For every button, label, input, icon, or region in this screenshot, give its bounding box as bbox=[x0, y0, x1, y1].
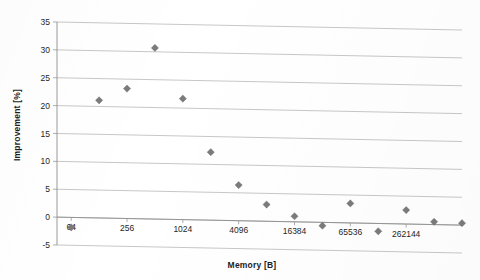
x-tick-label: 262144 bbox=[392, 229, 421, 239]
y-tick-label: 5 bbox=[45, 184, 50, 194]
scatter-chart: -505101520253035 64256102440961638465536… bbox=[0, 0, 480, 280]
y-tick-label: 20 bbox=[41, 101, 51, 111]
chart-canvas: -505101520253035 64256102440961638465536… bbox=[0, 0, 480, 280]
x-tick-label: 16384 bbox=[283, 226, 307, 236]
x-tick-label: 1024 bbox=[173, 224, 192, 234]
y-tick-label: 10 bbox=[41, 156, 51, 166]
x-tick-label: 256 bbox=[120, 223, 134, 233]
x-tick-label: 65536 bbox=[339, 227, 363, 237]
y-tick-label: 25 bbox=[41, 73, 51, 83]
x-axis-title: Memory [B] bbox=[228, 260, 277, 270]
y-tick-label: 35 bbox=[41, 17, 51, 27]
y-tick-label: -5 bbox=[42, 240, 50, 250]
x-tick-label: 4096 bbox=[229, 225, 248, 235]
y-tick-label: 0 bbox=[45, 212, 50, 222]
y-tick-label: 15 bbox=[41, 129, 51, 139]
y-tick-label: 30 bbox=[41, 45, 51, 55]
y-axis-title: Improvement [%] bbox=[12, 89, 22, 161]
